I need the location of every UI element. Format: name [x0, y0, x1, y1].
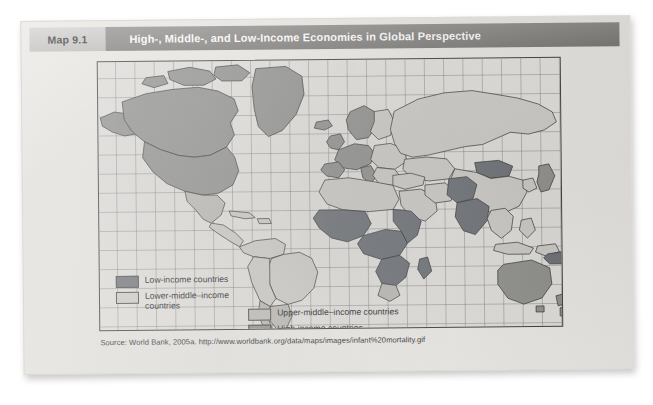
- region-iceland: [314, 120, 332, 130]
- region-mexico: [185, 191, 225, 223]
- region-central-america: [209, 223, 243, 247]
- legend-item: Lower-middle–income countries: [116, 290, 263, 312]
- map-number-tab: Map 9.1: [29, 27, 105, 52]
- region-caribbean-hispaniola: [257, 219, 271, 224]
- legend-item: Low-income countries: [116, 274, 263, 288]
- legend-item: High-income countries: [248, 322, 398, 331]
- region-greenland: [252, 66, 305, 136]
- source-note: Source: World Bank, 2005a. http://www.wo…: [100, 333, 620, 347]
- region-tasmania: [536, 306, 544, 312]
- region-russia: [390, 90, 557, 158]
- legend-item: Upper-middle–income countries: [248, 306, 398, 320]
- region-arctic-islands-2: [214, 65, 250, 81]
- legend-label: High-income countries: [277, 323, 363, 332]
- legend-swatch-lower-middle-income: [116, 292, 139, 304]
- region-south-africa: [378, 283, 400, 301]
- region-new-zealand-1: [556, 294, 562, 306]
- region-caribbean-cuba: [229, 211, 255, 219]
- map-legend-right: Upper-middle–income countries High-incom…: [248, 306, 399, 331]
- region-canada: [122, 87, 239, 158]
- world-map: Low-income countries Lower-middle–income…: [97, 57, 564, 331]
- legend-label: Low-income countries: [145, 274, 229, 285]
- page-title: High-, Middle-, and Low-Income Economies…: [129, 30, 481, 45]
- legend-swatch-high-income: [248, 325, 271, 332]
- figure-title-bar: High-, Middle-, and Low-Income Economies…: [105, 22, 619, 51]
- region-japan: [537, 164, 555, 192]
- region-turkey-caucasus: [393, 173, 425, 189]
- region-philippines: [519, 218, 535, 238]
- map-legend-left: Low-income countries Lower-middle–income…: [116, 274, 263, 315]
- map-figure-card: Map 9.1 High-, Middle-, and Low-Income E…: [20, 15, 633, 375]
- scanned-textbook-page: Map 9.1 High-, Middle-, and Low-Income E…: [0, 0, 653, 405]
- legend-label: Upper-middle–income countries: [277, 306, 398, 318]
- legend-swatch-low-income: [116, 276, 139, 288]
- region-india: [455, 198, 489, 234]
- figure-header: Map 9.1 High-, Middle-, and Low-Income E…: [21, 22, 621, 52]
- region-southern-africa: [376, 255, 410, 287]
- region-southeast-asia: [487, 208, 513, 238]
- legend-label: Lower-middle–income countries: [145, 290, 263, 312]
- region-madagascar: [418, 257, 432, 279]
- region-new-zealand-2: [560, 308, 562, 318]
- region-indonesia-1: [493, 242, 533, 254]
- region-arctic-islands-3: [142, 76, 168, 88]
- map-number-label: Map 9.1: [47, 33, 87, 45]
- region-scandinavia: [346, 106, 376, 140]
- legend-swatch-upper-middle-income: [248, 309, 271, 321]
- region-arctic-islands-1: [168, 67, 216, 85]
- region-australia: [498, 260, 552, 305]
- region-british-isles: [326, 134, 344, 150]
